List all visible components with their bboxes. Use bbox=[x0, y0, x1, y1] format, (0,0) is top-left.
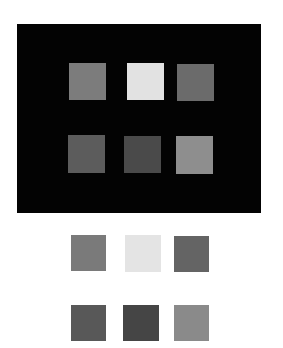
dark-panel-square-2 bbox=[127, 63, 164, 100]
dark-panel bbox=[17, 24, 261, 213]
light-background-square-5 bbox=[123, 305, 159, 341]
dark-panel-square-3 bbox=[177, 64, 214, 101]
light-background-square-3 bbox=[174, 236, 209, 272]
dark-panel-square-6 bbox=[176, 136, 213, 174]
light-background-square-6 bbox=[174, 305, 209, 341]
dark-panel-square-5 bbox=[124, 136, 161, 173]
dark-panel-square-4 bbox=[68, 135, 105, 173]
light-background-square-2 bbox=[125, 235, 161, 272]
light-background-square-1 bbox=[71, 235, 106, 271]
light-background-square-4 bbox=[71, 305, 106, 341]
dark-panel-square-1 bbox=[69, 63, 106, 100]
